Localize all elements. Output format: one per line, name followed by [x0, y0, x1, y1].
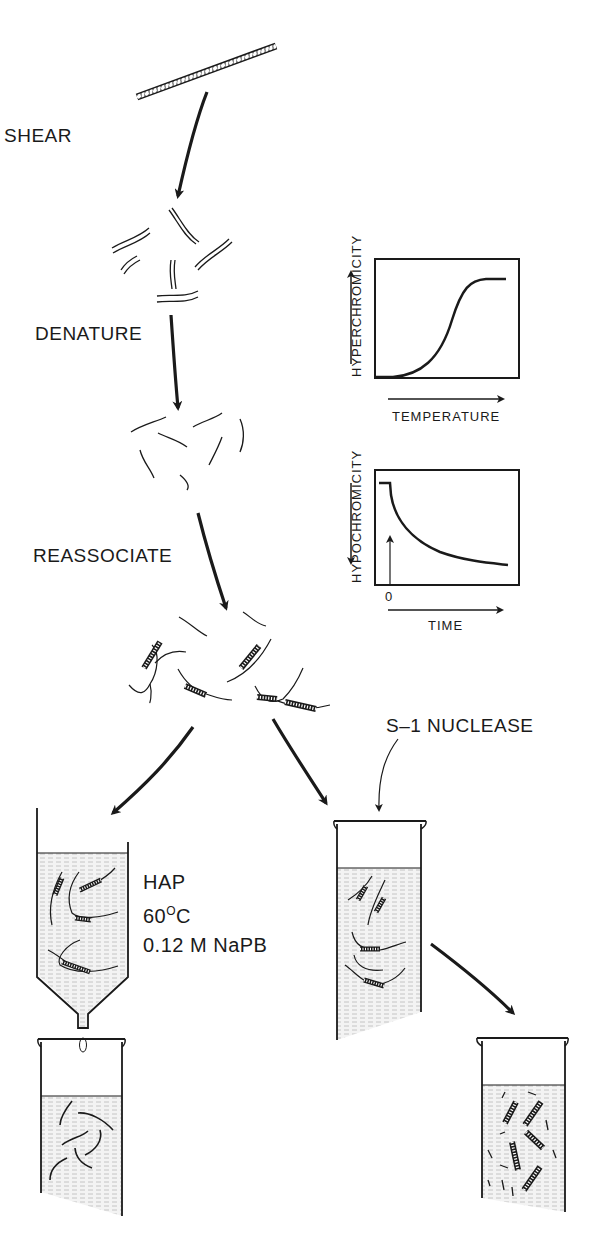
denature-label: DENATURE — [35, 323, 142, 345]
hypochromicity-axis-label: HYPOCHROMICITY — [349, 450, 364, 583]
shear-arrow-icon — [178, 92, 207, 196]
sheared-fragments-icon — [112, 208, 232, 302]
single-strand-tube-icon — [38, 1039, 125, 1216]
denature-arrow-icon — [171, 315, 178, 408]
reassociated-fragments-icon — [129, 612, 330, 708]
plot-frame — [375, 259, 519, 378]
reassociation-curve-line — [379, 483, 508, 565]
s1-nuclease-label: S–1 NUCLEASE — [386, 715, 534, 737]
time-axis-label: TIME — [428, 618, 463, 633]
hyperchromicity-axis-label: HYPERCHROMICITY — [349, 235, 364, 377]
single-strands-icon — [131, 413, 243, 490]
reassociate-label: REASSOCIATE — [33, 545, 172, 567]
digest-arrow-icon — [431, 944, 513, 1013]
shear-label: SHEAR — [4, 125, 72, 147]
branch-right-arrow-icon — [273, 719, 326, 803]
nuclease-reaction-tube-icon — [334, 821, 426, 1040]
nuclease-pointer-arrow-icon — [379, 739, 398, 810]
reassociation-curve-plot — [351, 470, 519, 610]
melting-curve-plot — [351, 259, 519, 399]
diagram-canvas — [0, 0, 603, 1255]
hap-column-icon — [37, 808, 128, 1052]
temperature-condition: 60OC — [143, 897, 267, 931]
digested-duplex-tube-icon — [477, 1038, 568, 1212]
branch-left-arrow-icon — [113, 727, 193, 813]
hap-label: HAP — [143, 868, 267, 897]
plot-frame — [375, 470, 519, 585]
melting-curve-line — [376, 279, 506, 377]
intact-dna-duplex-icon — [137, 46, 276, 97]
temperature-axis-label: TEMPERATURE — [392, 409, 500, 424]
duplex-segments-icon — [144, 642, 316, 709]
buffer-condition: 0.12 M NaPB — [143, 931, 267, 960]
hap-conditions: HAP 60OC 0.12 M NaPB — [143, 868, 267, 960]
time-zero-tick-label: 0 — [385, 589, 393, 604]
reassociate-arrow-icon — [198, 513, 226, 608]
